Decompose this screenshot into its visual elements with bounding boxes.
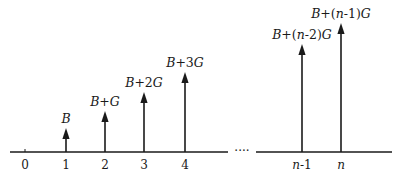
impulse-diagram: ···· BB+GB+2GB+3GB+(n-2)GB+(n-1)G 01234n… [0, 0, 402, 175]
tick-label: 3 [140, 158, 148, 172]
impulse-label: B+G [89, 94, 120, 109]
impulse-label: B+3G [165, 55, 204, 70]
tick-label: 4 [181, 158, 189, 172]
impulse-label: B+(n-2)G [271, 27, 332, 42]
impulse-arrow: B [60, 111, 70, 152]
impulse-label: B [60, 111, 70, 126]
impulse-arrow: B+3G [165, 55, 204, 152]
tick-label: 1 [62, 158, 70, 172]
tick-label: 2 [101, 158, 109, 172]
arrowhead-icon [101, 111, 108, 122]
arrowhead-icon [181, 72, 188, 83]
axis-ellipsis: ···· [234, 144, 249, 158]
tick-label: n-1 [292, 158, 311, 172]
impulse-arrows: BB+GB+2GB+3GB+(n-2)GB+(n-1)G [60, 6, 370, 152]
x-axis: ···· [10, 144, 392, 158]
impulse-arrow: B+(n-2)G [271, 27, 332, 152]
impulse-arrow: B+G [89, 94, 120, 152]
arrowhead-icon [337, 23, 344, 34]
tick-labels: 01234n-1n [21, 158, 345, 172]
tick-label: 0 [21, 158, 29, 172]
impulse-arrow: B+2G [124, 75, 163, 152]
tick-label: n [337, 158, 345, 172]
impulse-label: B+2G [124, 75, 163, 90]
arrowhead-icon [62, 128, 69, 139]
arrowhead-icon [140, 92, 147, 103]
arrowhead-icon [298, 44, 305, 55]
impulse-label: B+(n-1)G [310, 6, 371, 21]
